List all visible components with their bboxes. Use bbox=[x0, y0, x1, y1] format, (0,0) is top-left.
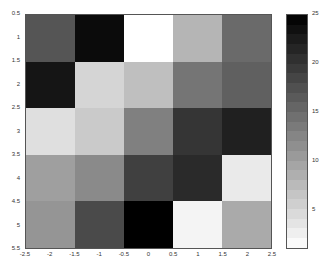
heatmap-cell bbox=[173, 108, 222, 155]
colorbar-segment bbox=[287, 190, 307, 200]
heatmap-cell bbox=[173, 155, 222, 202]
heatmap-cell bbox=[75, 15, 124, 62]
y-tick-label: 3 bbox=[0, 128, 20, 134]
x-tick-label: 1 bbox=[188, 251, 208, 257]
colorbar-segment bbox=[287, 219, 307, 229]
heatmap-cell bbox=[26, 201, 75, 248]
heatmap-cell bbox=[26, 15, 75, 62]
heatmap-cell bbox=[124, 201, 173, 248]
heatmap-cell bbox=[75, 201, 124, 248]
colorbar-segment bbox=[287, 238, 307, 248]
y-tick-label: 2.5 bbox=[0, 104, 20, 110]
y-tick-label: 1 bbox=[0, 34, 20, 40]
colorbar-segment bbox=[287, 228, 307, 238]
heatmap-cell bbox=[222, 155, 271, 202]
x-tick-label: 2 bbox=[237, 251, 257, 257]
heatmap-cell bbox=[222, 15, 271, 62]
colorbar-segment bbox=[287, 122, 307, 132]
heatmap-cell bbox=[222, 62, 271, 109]
colorbar-segment bbox=[287, 141, 307, 151]
colorbar-segment bbox=[287, 93, 307, 103]
colorbar-segment bbox=[287, 34, 307, 44]
colorbar-segment bbox=[287, 73, 307, 83]
colorbar-tick-label: 20 bbox=[312, 59, 319, 65]
colorbar-segment bbox=[287, 199, 307, 209]
colorbar-segment bbox=[287, 64, 307, 74]
heatmap-plot-area bbox=[25, 14, 272, 249]
y-tick-label: 0.5 bbox=[0, 10, 20, 16]
colorbar-segment bbox=[287, 209, 307, 219]
heatmap-cell bbox=[124, 108, 173, 155]
colorbar-segment bbox=[287, 44, 307, 54]
y-tick-label: 2 bbox=[0, 81, 20, 87]
x-tick-label: -2 bbox=[40, 251, 60, 257]
colorbar-segment bbox=[287, 170, 307, 180]
heatmap-cell bbox=[222, 201, 271, 248]
colorbar bbox=[286, 14, 308, 249]
heatmap-cell bbox=[173, 201, 222, 248]
heatmap-cell bbox=[26, 62, 75, 109]
colorbar-segment bbox=[287, 180, 307, 190]
heatmap-cell bbox=[222, 108, 271, 155]
heatmap-cell bbox=[26, 155, 75, 202]
heatmap-cell bbox=[124, 62, 173, 109]
colorbar-segment bbox=[287, 161, 307, 171]
heatmap-cell bbox=[124, 155, 173, 202]
y-tick-label: 3.5 bbox=[0, 151, 20, 157]
colorbar-tick-label: 15 bbox=[312, 108, 319, 114]
colorbar-segment bbox=[287, 54, 307, 64]
x-tick-label: 2.5 bbox=[262, 251, 282, 257]
x-tick-label: 0 bbox=[139, 251, 159, 257]
colorbar-segment bbox=[287, 131, 307, 141]
y-tick-label: 5 bbox=[0, 222, 20, 228]
heatmap-cell bbox=[75, 108, 124, 155]
heatmap-cell bbox=[173, 15, 222, 62]
y-tick-label: 4.5 bbox=[0, 198, 20, 204]
colorbar-segment bbox=[287, 83, 307, 93]
heatmap-cell bbox=[26, 108, 75, 155]
colorbar-segment bbox=[287, 102, 307, 112]
heatmap-cell bbox=[75, 62, 124, 109]
x-tick-label: -0.5 bbox=[114, 251, 134, 257]
x-tick-label: 0.5 bbox=[163, 251, 183, 257]
x-tick-label: 1.5 bbox=[213, 251, 233, 257]
colorbar-tick-label: 10 bbox=[312, 157, 319, 163]
heatmap-cell bbox=[173, 62, 222, 109]
colorbar-segment bbox=[287, 151, 307, 161]
heatmap-cell bbox=[75, 155, 124, 202]
colorbar-segment bbox=[287, 25, 307, 35]
colorbar-segment bbox=[287, 15, 307, 25]
x-tick-label: -1.5 bbox=[64, 251, 84, 257]
colorbar-tick-label: 25 bbox=[312, 10, 319, 16]
x-tick-label: -2.5 bbox=[15, 251, 35, 257]
heatmap-cell bbox=[124, 15, 173, 62]
colorbar-segment bbox=[287, 112, 307, 122]
colorbar-tick-label: 5 bbox=[312, 206, 315, 212]
y-tick-label: 4 bbox=[0, 175, 20, 181]
y-tick-label: 1.5 bbox=[0, 57, 20, 63]
x-tick-label: -1 bbox=[89, 251, 109, 257]
